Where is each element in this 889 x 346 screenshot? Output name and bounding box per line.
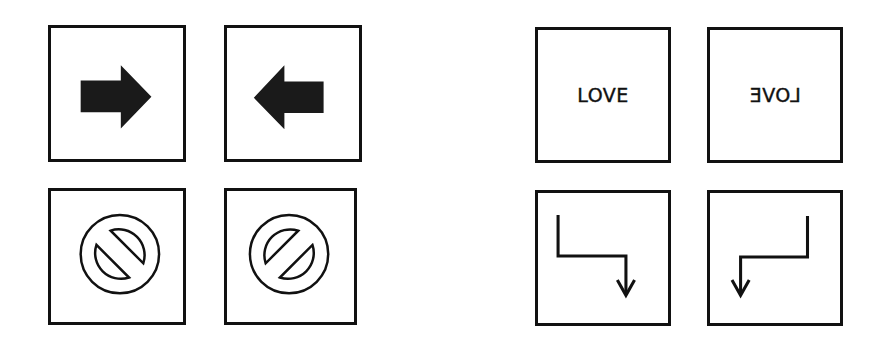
panel-prohibition-backslash <box>48 188 186 325</box>
panel-fold-arrow-left <box>707 190 843 326</box>
panel-fold-arrow-right <box>535 190 671 326</box>
prohibition-icon <box>227 191 354 322</box>
love-mirrored-text: LOVE <box>710 30 840 160</box>
prohibition-icon <box>51 191 183 322</box>
panel-arrow-left <box>224 25 362 162</box>
panel-love: LOVE <box>535 27 671 163</box>
arrow-left-icon <box>227 28 359 159</box>
stepped-arrow-down-right-icon <box>538 193 668 323</box>
stepped-arrow-down-left-icon <box>710 193 840 323</box>
arrow-right-icon <box>51 28 183 159</box>
panel-arrow-right <box>48 25 186 162</box>
panel-prohibition-slash <box>224 188 357 325</box>
panel-love-mirrored: LOVE <box>707 27 843 163</box>
love-text: LOVE <box>538 30 668 160</box>
